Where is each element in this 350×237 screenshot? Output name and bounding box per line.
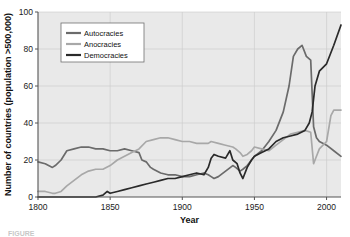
legend-label-anocracies: Anocracies — [84, 40, 121, 49]
x-axis-tick-label: 1850 — [101, 202, 120, 212]
x-axis-tick-label: 1950 — [245, 202, 264, 212]
legend-label-autocracies: Autocracies — [84, 29, 123, 38]
y-axis-tick-label: 40 — [24, 118, 34, 128]
y-axis-tick-label: 100 — [19, 7, 33, 17]
x-axis-tick-label: 1800 — [29, 202, 48, 212]
y-axis-tick-label: 0 — [28, 192, 33, 202]
chart-legend: AutocraciesAnocraciesDemocracies — [61, 23, 144, 62]
y-axis-tick-label: 20 — [24, 155, 34, 165]
x-axis-tick-label: 1900 — [173, 202, 192, 212]
countries-by-regime-type-chart: 02040608010018001850190019502000YearNumb… — [0, 0, 350, 237]
legend-label-democracies: Democracies — [84, 51, 128, 60]
y-axis-tick-label: 60 — [24, 81, 34, 91]
x-axis-title: Year — [180, 215, 200, 225]
figure-caption-text: FIGURE — [8, 230, 34, 237]
x-axis-tick-label: 2000 — [317, 202, 336, 212]
y-axis-title: Number of countries (population >500,000… — [3, 13, 13, 196]
chart-figure: 02040608010018001850190019502000YearNumb… — [0, 0, 350, 237]
y-axis-tick-label: 80 — [24, 44, 34, 54]
figure-caption-strip: FIGURE — [0, 228, 350, 237]
